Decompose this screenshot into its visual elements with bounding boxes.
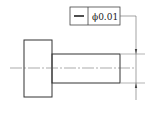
tolerance-value: ϕ0.01 — [92, 12, 118, 22]
shaft-body — [52, 54, 120, 83]
arrow-up-icon — [135, 83, 137, 88]
leader-line — [120, 16, 136, 100]
drawing-canvas: ϕ0.01 — [0, 0, 156, 113]
shaft-head — [24, 40, 52, 97]
arrow-down-icon — [135, 49, 137, 54]
